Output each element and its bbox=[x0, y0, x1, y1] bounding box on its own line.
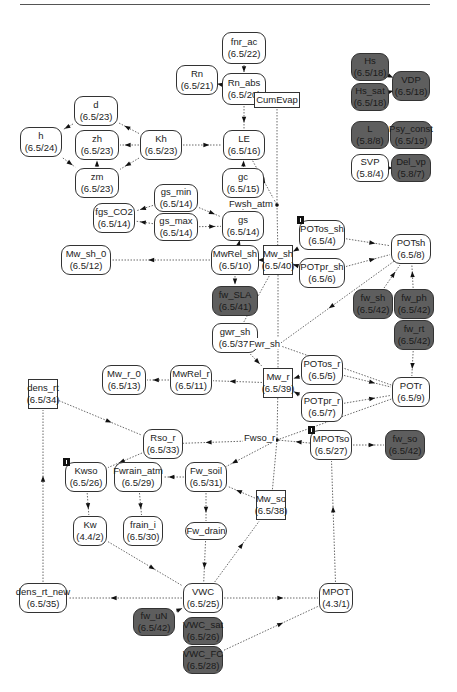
node-fgs-co2: fgs_CO2(6.5/14) bbox=[93, 203, 135, 233]
edge-arrowhead bbox=[329, 303, 335, 308]
flow-label-fwr-sh: Fwr_sh bbox=[248, 338, 281, 349]
node-code: (6.5/28) bbox=[187, 660, 220, 672]
node-name: fw_SLA bbox=[219, 289, 252, 301]
node-code: (6.5/31) bbox=[190, 477, 223, 489]
node-rn: Rn(6.5/21) bbox=[176, 65, 218, 95]
node-fw-sla: fw_SLA(6.5/41) bbox=[212, 286, 258, 316]
edge-arrowhead bbox=[331, 506, 335, 512]
edge bbox=[344, 395, 391, 403]
node-name: POTpr_r bbox=[304, 395, 340, 407]
node-potpr-r: POTpr_r(6.5/7) bbox=[301, 392, 343, 422]
node-gs-min: gs_min(6.5/14) bbox=[154, 184, 198, 212]
node-name: Rso_r bbox=[150, 432, 175, 444]
node-code: (6.5/38) bbox=[255, 505, 288, 517]
edge-arrowhead bbox=[125, 161, 131, 166]
node-name: MPOTso bbox=[313, 433, 349, 445]
node-code: (6.5/15) bbox=[227, 183, 260, 195]
node-name: Hs_sat bbox=[355, 85, 385, 97]
node-name: d bbox=[93, 99, 98, 111]
edge-arrowhead bbox=[209, 210, 215, 214]
node-name: Mw_r_0 bbox=[107, 368, 141, 380]
node-name: fgs_CO2 bbox=[95, 206, 133, 218]
node-name: h bbox=[38, 130, 43, 142]
node-name: Mw_r bbox=[266, 371, 289, 383]
edge bbox=[224, 606, 318, 650]
node-name: SVP bbox=[360, 156, 379, 168]
node-code: (6.5/29) bbox=[122, 477, 155, 489]
flow-label-fwsh-atm: Fwsh_atm bbox=[228, 198, 274, 209]
node-name: fnr_ac bbox=[231, 36, 257, 48]
node-code: (4.4/2) bbox=[76, 531, 103, 543]
node-potr: POTr(6.5/9) bbox=[392, 377, 430, 407]
node-kwso: Kwso(6.5/26) bbox=[65, 462, 107, 492]
node-name: MwRel_sh bbox=[213, 248, 257, 260]
node-code: (6.5/25) bbox=[187, 598, 220, 610]
node-name: fw_sh bbox=[361, 292, 386, 304]
node-code: (6.5/42) bbox=[357, 304, 390, 316]
edge bbox=[204, 541, 206, 582]
node-mpot: MPOT(4.3/1) bbox=[319, 583, 353, 613]
edge bbox=[346, 239, 390, 246]
node-code: (6.5/19) bbox=[395, 135, 428, 147]
flow-junction bbox=[275, 203, 279, 207]
node-name: Rn_abs bbox=[228, 77, 261, 89]
node-code: (6.5/14) bbox=[160, 227, 193, 239]
edge-arrowhead bbox=[148, 258, 154, 262]
node-code: (6.5/8) bbox=[397, 249, 424, 261]
node-del-vp: Del_vp(5.8/7) bbox=[391, 154, 431, 182]
edge bbox=[346, 255, 390, 267]
node-name: frain_i bbox=[130, 519, 156, 531]
node-code: (6.5/14) bbox=[160, 198, 193, 210]
node-d: d(6.5/23) bbox=[74, 96, 118, 126]
node-hs-sat: Hs_sat(6.5/18) bbox=[351, 83, 389, 111]
node-name: LE bbox=[238, 133, 250, 145]
edge-arrowhead bbox=[242, 66, 246, 72]
node-dens-rt-new: dens_rt_new(6.5/35) bbox=[19, 583, 67, 613]
node-code: (6.5/21) bbox=[181, 80, 214, 92]
node-name: CumEvap bbox=[256, 94, 298, 106]
node-name: POTr bbox=[400, 380, 422, 392]
node-code: (6.5/4) bbox=[308, 235, 335, 247]
node-hs: Hs(6.5/18) bbox=[351, 53, 389, 81]
node-code: (5.8/7) bbox=[397, 168, 424, 180]
node-code: (6.5/11) bbox=[175, 380, 207, 392]
node-mw-r: Mw_r(6.5/39) bbox=[263, 368, 293, 398]
node-code: (6.5/23) bbox=[81, 183, 114, 195]
node-svp: SVP(5.8/4) bbox=[351, 154, 389, 182]
edge-arrowhead bbox=[390, 272, 395, 278]
node-code: (6.5/34) bbox=[27, 394, 60, 406]
node-code: (6.5/10) bbox=[219, 260, 252, 272]
node-name: Mw_sh bbox=[263, 248, 293, 260]
node-potos-sh: POTos_sh(6.5/4) bbox=[299, 220, 345, 250]
edge-arrowhead bbox=[209, 224, 215, 228]
node-name: Fw_drain bbox=[186, 525, 225, 537]
edge bbox=[213, 381, 262, 383]
node-name: gs_min bbox=[161, 186, 192, 198]
node-code: (6.5/26) bbox=[187, 631, 220, 643]
node-name: POTos_r bbox=[304, 358, 341, 370]
node-l: L(5.8/8) bbox=[351, 121, 389, 149]
node-name: Kh bbox=[155, 133, 167, 145]
node-name: POTsh bbox=[397, 237, 426, 249]
node-code: (6.5/18) bbox=[395, 86, 428, 98]
node-mpotso: MPOTso(6.5/27) bbox=[310, 430, 352, 460]
node-psy-const: Psy_const(6.5/19) bbox=[390, 121, 432, 149]
node-name: POTpr_sh bbox=[300, 261, 343, 273]
edge-arrowhead bbox=[67, 160, 73, 165]
node-code: (6.5/14) bbox=[227, 226, 260, 238]
flow-label-fwso-r: Fwso_r bbox=[243, 432, 276, 443]
edge-arrowhead bbox=[369, 258, 375, 262]
node-name: VWC_FC bbox=[183, 648, 223, 660]
edge-arrowhead bbox=[140, 220, 146, 224]
node-code: (5.8/8) bbox=[356, 135, 383, 147]
node-name: gs bbox=[238, 214, 248, 226]
node-code: (6.5/41) bbox=[219, 301, 252, 313]
edge-arrowhead bbox=[125, 143, 131, 147]
node-code: (6.5/27) bbox=[315, 445, 348, 457]
node-code: (6.5/33) bbox=[147, 444, 180, 456]
node-vwc-sat: VWC_sat(6.5/26) bbox=[183, 617, 223, 645]
node-fw-drain: Fw_drain bbox=[185, 522, 227, 540]
edge-arrowhead bbox=[233, 278, 237, 284]
node-vwc-fc: VWC_FC(6.5/28) bbox=[183, 646, 223, 674]
node-code: (6.5/23) bbox=[145, 145, 178, 157]
